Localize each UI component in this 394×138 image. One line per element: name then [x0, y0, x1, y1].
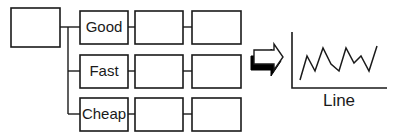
row-label: Good	[86, 18, 123, 35]
tree-diagram: GoodFastCheap	[11, 8, 241, 131]
box-row2-col2	[135, 55, 183, 88]
diagram-canvas: GoodFastCheap Line	[0, 0, 394, 138]
chart-line-series	[300, 46, 377, 80]
root-box	[11, 8, 60, 47]
row-label: Cheap	[82, 105, 126, 122]
chart-caption: Line	[323, 91, 355, 110]
box-row3-col3	[192, 98, 241, 131]
line-chart: Line	[292, 32, 387, 110]
box-row1-col3	[192, 11, 241, 44]
box-row3-col2	[135, 98, 183, 131]
box-row1-col2	[135, 11, 183, 44]
box-row2-col3	[192, 55, 241, 88]
row-label: Fast	[89, 62, 119, 79]
right-arrow-icon	[251, 44, 283, 76]
